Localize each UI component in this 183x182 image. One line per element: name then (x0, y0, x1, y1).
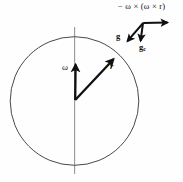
g-true-label: g (116, 32, 120, 41)
g-effective-subscript: c (143, 46, 146, 52)
physics-vector-diagram: ω r − ω × (ω × r) g gc (0, 0, 183, 182)
r-vector-label: r (110, 62, 113, 71)
g-effective-label: gc (139, 43, 146, 52)
r-vector-arrow (75, 59, 113, 100)
centrifugal-term-label: − ω × (ω × r) (118, 2, 165, 11)
diagram-canvas (0, 0, 183, 182)
omega-vector-label: ω (62, 63, 68, 72)
